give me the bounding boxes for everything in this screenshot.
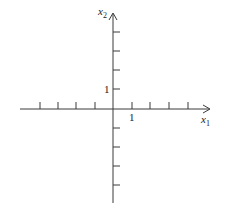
x-axis-ticks (40, 102, 188, 109)
x-axis-unit-label: 1 (129, 111, 135, 123)
x-axis-label: x1 (200, 113, 210, 128)
x-axis-label-sub: 1 (206, 119, 210, 128)
y-axis-label-sub: 2 (103, 11, 107, 20)
y-axis-label: x2 (97, 5, 107, 20)
coordinate-plane: 1 1 x1 x2 (0, 0, 226, 207)
y-axis-unit-label: 1 (104, 83, 110, 95)
